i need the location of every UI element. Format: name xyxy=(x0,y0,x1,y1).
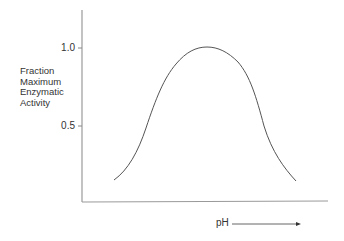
y-tick-label-0-5: 0.5 xyxy=(45,120,75,131)
y-axis-label-line: Fraction xyxy=(20,66,64,77)
y-axis-label: Fraction Maximum Enzymatic Activity xyxy=(20,66,64,108)
activity-curve xyxy=(114,47,296,181)
y-tick-label-1-0: 1.0 xyxy=(45,42,75,53)
y-axis-label-line: Activity xyxy=(20,98,64,109)
ph-arrow-head-icon xyxy=(296,222,301,226)
x-axis-label: pH xyxy=(216,217,229,228)
x-axis xyxy=(82,201,328,202)
y-axis-label-line: Enzymatic xyxy=(20,87,64,98)
